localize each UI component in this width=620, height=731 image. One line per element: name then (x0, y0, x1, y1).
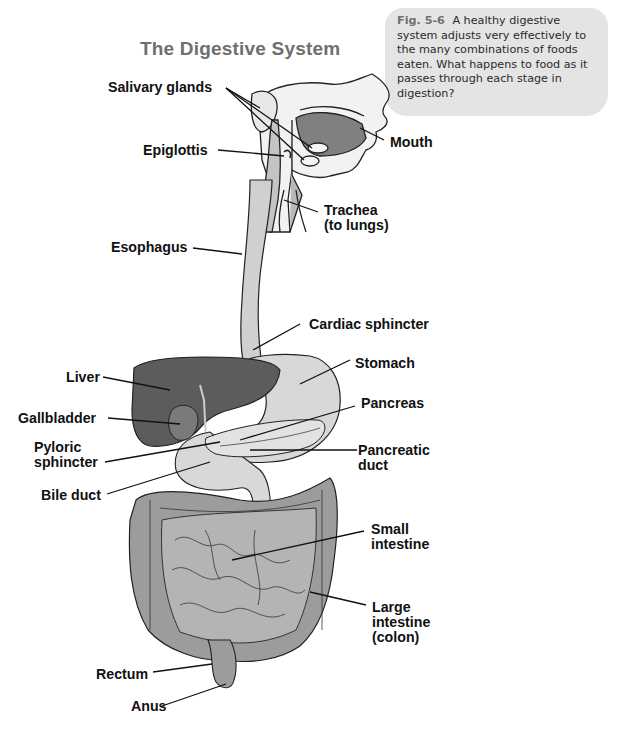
esophagus-illustration (241, 180, 272, 365)
label-mouth: Mouth (390, 135, 433, 150)
label-pyloric-sphincter: Pyloric sphincter (34, 440, 98, 470)
label-gallbladder: Gallbladder (18, 411, 96, 426)
label-liver: Liver (66, 370, 100, 385)
digestive-system-illustration (0, 0, 620, 731)
label-cardiac-sphincter: Cardiac sphincter (309, 317, 429, 332)
label-bile-duct: Bile duct (41, 488, 101, 503)
label-pancreas: Pancreas (361, 396, 424, 411)
label-epiglottis: Epiglottis (143, 143, 208, 158)
label-large-intestine: Large intestine (colon) (372, 600, 430, 645)
label-anus: Anus (131, 699, 166, 714)
label-salivary-glands: Salivary glands (108, 80, 212, 95)
label-esophagus: Esophagus (111, 240, 187, 255)
label-pancreatic-duct: Pancreatic duct (358, 443, 430, 473)
label-small-intestine: Small intestine (371, 522, 429, 552)
label-stomach: Stomach (355, 356, 415, 371)
rectum-illustration (208, 640, 236, 688)
small-intestine-illustration (162, 508, 317, 643)
label-trachea: Trachea (to lungs) (324, 203, 389, 233)
label-rectum: Rectum (96, 667, 148, 682)
